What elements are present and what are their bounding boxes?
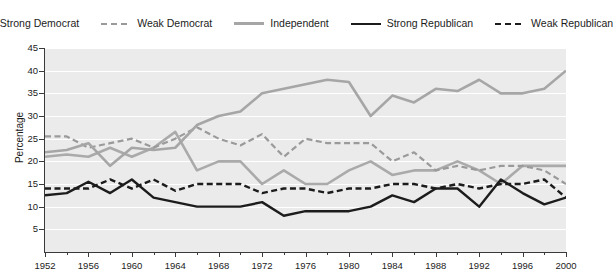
x-tick-minor — [327, 252, 328, 255]
legend-item-strong-republican[interactable]: Strong Republican — [351, 18, 473, 29]
x-tick-minor — [240, 252, 241, 255]
chart-legend: Strong DemocratWeak DemocratIndependentS… — [0, 14, 577, 32]
x-tick-minor — [67, 252, 68, 255]
legend-item-weak-democrat[interactable]: Weak Democrat — [101, 18, 212, 29]
y-tick-label: 35 — [0, 87, 38, 98]
x-tick-minor — [544, 252, 545, 255]
series-layer — [45, 48, 566, 252]
x-tick-label: 1960 — [121, 260, 142, 271]
x-tick-label: 1988 — [425, 260, 446, 271]
y-tick — [39, 48, 44, 49]
legend-item-independent[interactable]: Independent — [234, 18, 328, 29]
x-tick — [132, 252, 133, 257]
x-tick — [392, 252, 393, 257]
x-tick — [436, 252, 437, 257]
x-tick-minor — [371, 252, 372, 255]
x-tick-label: 1984 — [382, 260, 403, 271]
x-tick-minor — [154, 252, 155, 255]
x-tick-label: 1956 — [78, 260, 99, 271]
y-tick-label: 30 — [0, 110, 38, 121]
x-tick — [45, 252, 46, 257]
legend-swatch-icon — [234, 22, 264, 25]
x-tick — [262, 252, 263, 257]
legend-label: Strong Republican — [387, 18, 473, 29]
x-tick-minor — [110, 252, 111, 255]
x-tick-minor — [284, 252, 285, 255]
y-tick-label: 20 — [0, 155, 38, 166]
legend-label: Independent — [270, 18, 328, 29]
y-tick — [39, 93, 44, 94]
y-tick — [39, 116, 44, 117]
legend-label: Weak Democrat — [137, 18, 212, 29]
legend-swatch-icon — [495, 23, 525, 25]
x-tick-minor — [501, 252, 502, 255]
x-tick — [349, 252, 350, 257]
y-tick-label: 5 — [0, 223, 38, 234]
x-tick — [479, 252, 480, 257]
y-tick-label: 15 — [0, 178, 38, 189]
series-line-independent — [45, 71, 566, 166]
x-tick-minor — [414, 252, 415, 255]
y-axis-line — [44, 48, 45, 252]
y-tick — [39, 161, 44, 162]
y-tick — [39, 139, 44, 140]
x-tick-label: 1980 — [338, 260, 359, 271]
x-tick-label: 1952 — [34, 260, 55, 271]
legend-label: Weak Republican — [531, 18, 613, 29]
y-tick — [39, 229, 44, 230]
legend-item-weak-republican[interactable]: Weak Republican — [495, 18, 613, 29]
x-tick-minor — [197, 252, 198, 255]
x-tick-label: 1972 — [252, 260, 273, 271]
y-tick-label: 10 — [0, 201, 38, 212]
x-tick-minor — [457, 252, 458, 255]
y-tick — [39, 207, 44, 208]
y-tick-label: 25 — [0, 133, 38, 144]
legend-label: Strong Democrat — [0, 18, 79, 29]
plot-area — [45, 48, 566, 252]
legend-swatch-icon — [351, 23, 381, 25]
y-tick — [39, 71, 44, 72]
y-tick-label: 40 — [0, 65, 38, 76]
x-tick — [566, 252, 567, 257]
x-tick-label: 1976 — [295, 260, 316, 271]
y-tick-label: 45 — [0, 42, 38, 53]
x-tick-label: 1996 — [512, 260, 533, 271]
x-tick-label: 1968 — [208, 260, 229, 271]
x-tick — [523, 252, 524, 257]
legend-item-strong-democrat[interactable]: Strong Democrat — [0, 18, 79, 29]
x-tick — [88, 252, 89, 257]
x-tick-label: 1992 — [469, 260, 490, 271]
x-tick — [219, 252, 220, 257]
x-tick-label: 1964 — [165, 260, 186, 271]
legend-swatch-icon — [101, 23, 131, 25]
x-tick-label: 2000 — [555, 260, 576, 271]
x-tick — [175, 252, 176, 257]
y-tick — [39, 184, 44, 185]
x-tick — [306, 252, 307, 257]
